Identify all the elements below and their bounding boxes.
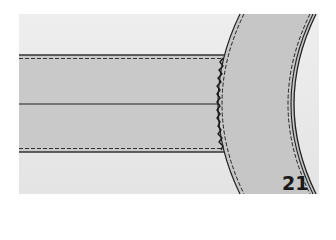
straight-band <box>19 55 225 152</box>
figure-number: 21 <box>282 173 308 193</box>
